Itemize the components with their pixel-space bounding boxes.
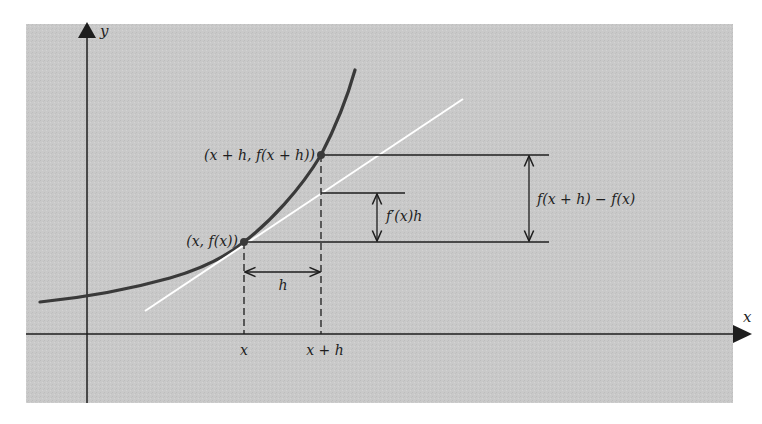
tangent-rise-label: f′(x)h [385, 208, 422, 224]
derivative-diagram: x y (x, f(x)) (x + h, f(x + h)) x x + h … [0, 0, 762, 424]
h-label: h [278, 277, 287, 293]
tick-label-x: x [240, 342, 248, 358]
tick-label-x-plus-h: x + h [306, 342, 344, 358]
point-x-fx [240, 238, 248, 246]
diagram-panel [26, 24, 733, 403]
y-axis-label: y [99, 22, 109, 40]
x-axis-arrowhead-icon [733, 325, 752, 343]
point-x-plus-h-label: (x + h, f(x + h)) [204, 147, 315, 163]
point-x-fx-label: (x, f(x)) [186, 233, 238, 249]
point-x-plus-h [317, 151, 325, 159]
secant-rise-label: f(x + h) − f(x) [536, 191, 635, 207]
x-axis-label: x [743, 308, 752, 326]
